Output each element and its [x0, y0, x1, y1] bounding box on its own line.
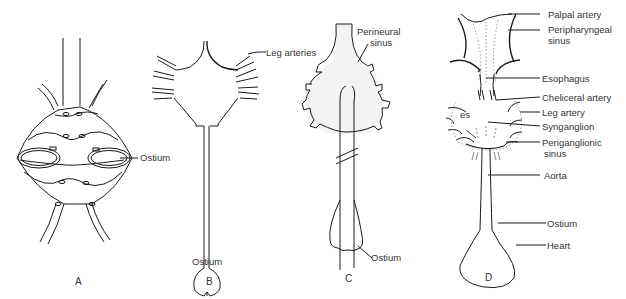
label-d-periganglionic-line2: sinus	[544, 148, 566, 159]
panel-letter-d: D	[485, 272, 492, 283]
label-d-heart: Heart	[547, 240, 570, 251]
label-c-ostium: Ostium	[371, 252, 401, 263]
label-d-esophagus: Esophagus	[542, 73, 590, 84]
panel-a-heart	[17, 38, 138, 244]
label-d-peripharyngeal-line2: sinus	[548, 35, 570, 46]
label-d-aorta: Aorta	[544, 170, 567, 181]
label-d-peripharyngeal-line1: Peripharyngeal	[548, 24, 612, 35]
label-c-perineural-line1: Perineural	[357, 26, 400, 37]
label-a-ostium: Ostium	[140, 152, 170, 163]
panel-d-heart	[446, 14, 546, 288]
label-c-perineural-line2: sinus	[370, 37, 392, 48]
label-b-leg-arteries: Leg arteries	[266, 47, 316, 58]
label-d-es: es	[460, 109, 470, 120]
panel-letter-c: C	[345, 273, 352, 284]
label-d-leg-artery: Leg artery	[542, 107, 585, 118]
diagram-canvas	[0, 0, 626, 299]
panel-c-heart	[302, 24, 390, 270]
label-b-ostium: Ostium	[192, 256, 222, 267]
panel-letter-b: B	[206, 276, 213, 287]
label-d-ostium: Ostium	[547, 218, 577, 229]
panel-letter-a: A	[75, 276, 82, 287]
label-d-periganglionic-line1: Periganglionic	[542, 137, 602, 148]
label-d-palpal-artery: Palpal artery	[548, 9, 601, 20]
label-d-cheliceral-artery: Cheliceral artery	[542, 92, 611, 103]
label-d-synganglion: Synganglion	[542, 121, 594, 132]
